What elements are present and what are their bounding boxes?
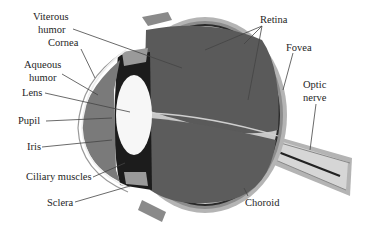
label-aqueous-humor: Aqueous xyxy=(24,59,61,70)
eye-diagram: Viterous humor Cornea Aqueous humor Lens… xyxy=(0,0,368,229)
label-vitreous-humor: Viterous xyxy=(33,11,69,22)
label-fovea: Fovea xyxy=(286,42,312,53)
svg-text:humor: humor xyxy=(29,72,57,83)
label-choroid: Choroid xyxy=(245,197,280,208)
label-ciliary-muscles: Ciliary muscles xyxy=(26,171,92,182)
label-sclera: Sclera xyxy=(47,197,74,208)
vitreous-humor xyxy=(145,26,279,204)
svg-text:nerve: nerve xyxy=(303,92,327,103)
label-retina: Retina xyxy=(260,14,288,25)
label-optic-nerve: Optic xyxy=(303,79,327,90)
svg-text:humor: humor xyxy=(38,24,66,35)
label-pupil: Pupil xyxy=(18,115,40,126)
label-iris: Iris xyxy=(27,141,41,152)
aqueous-humor xyxy=(82,60,120,182)
label-cornea: Cornea xyxy=(48,37,79,48)
lens xyxy=(116,75,152,155)
label-lens: Lens xyxy=(22,87,42,98)
